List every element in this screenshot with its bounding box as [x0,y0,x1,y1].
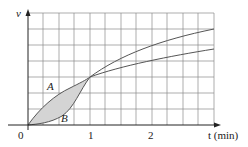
y-axis-arrow-icon [26,9,31,16]
chart: v 0 1 2 t (min) A B [0,0,248,147]
curve-a-label: A [46,80,54,92]
y-axis-label: v [16,7,21,19]
x-tick-2: 2 [148,129,154,141]
curve-b-label: B [61,112,68,124]
x-axis-label: t (min) [208,129,239,142]
origin-label: 0 [18,129,24,141]
x-axis-arrow-icon [214,123,221,128]
x-tick-1: 1 [88,129,94,141]
